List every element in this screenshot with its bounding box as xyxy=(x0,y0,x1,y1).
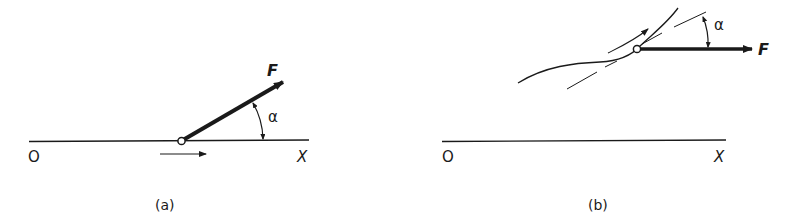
angle-arc xyxy=(703,17,708,47)
axis-line-ox xyxy=(29,140,309,142)
axis-end-label: X xyxy=(713,148,725,166)
angle-label: α xyxy=(268,108,278,126)
axis-line-ox xyxy=(442,140,726,142)
origin-label: O xyxy=(442,148,454,166)
force-label: F xyxy=(267,61,278,80)
panel-a: O X F α (a) xyxy=(28,61,309,213)
angle-arc xyxy=(253,103,263,139)
application-point xyxy=(178,137,185,144)
panel-caption: (b) xyxy=(588,197,608,213)
force-angle-diagram: O X F α (a) O X F α xyxy=(0,0,797,224)
application-point xyxy=(633,45,640,52)
force-label: F xyxy=(758,40,769,59)
axis-end-label: X xyxy=(296,148,308,166)
curved-trajectory xyxy=(518,8,678,83)
panel-caption: (a) xyxy=(155,197,175,213)
panel-b: O X F α (b) xyxy=(442,8,769,213)
origin-label: O xyxy=(28,148,40,166)
angle-label: α xyxy=(714,16,724,34)
